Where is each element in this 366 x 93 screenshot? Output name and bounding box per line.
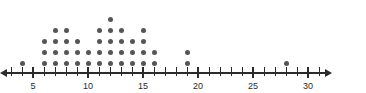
axis-arrow-left-icon	[0, 69, 7, 77]
data-dot	[130, 39, 135, 44]
axis-tick	[87, 67, 89, 78]
data-dot	[75, 39, 80, 44]
data-dot	[64, 28, 69, 33]
axis-tick	[165, 67, 166, 76]
data-dot	[141, 61, 146, 66]
axis-tick	[187, 67, 188, 76]
axis-tick	[275, 67, 276, 76]
data-dot	[75, 61, 80, 66]
data-dot	[86, 61, 91, 66]
axis-tick	[252, 67, 254, 78]
axis-tick	[110, 67, 111, 76]
data-dot	[119, 39, 124, 44]
axis-tick	[242, 67, 243, 76]
axis-tick-label: 10	[78, 81, 98, 91]
axis-tick-label: 20	[188, 81, 208, 91]
axis-tick-label: 15	[133, 81, 153, 91]
data-dot	[53, 61, 58, 66]
data-dot	[141, 39, 146, 44]
axis-tick	[286, 67, 287, 76]
data-dot	[97, 39, 102, 44]
data-dot	[97, 61, 102, 66]
data-dot	[130, 61, 135, 66]
data-dot	[64, 39, 69, 44]
data-dot	[86, 50, 91, 55]
axis-tick	[55, 67, 56, 76]
data-dot	[108, 61, 113, 66]
axis-tick	[142, 67, 144, 78]
axis-tick	[121, 67, 122, 76]
axis-tick	[307, 67, 309, 78]
data-dot	[53, 28, 58, 33]
axis-tick	[220, 67, 221, 76]
axis-tick	[22, 67, 23, 76]
axis-tick	[44, 67, 45, 76]
data-dot	[53, 50, 58, 55]
axis-tick	[297, 67, 298, 76]
axis-tick	[132, 67, 133, 76]
dot-plot-chart: 51015202530	[0, 0, 366, 93]
data-dot	[42, 50, 47, 55]
data-dot	[108, 39, 113, 44]
axis-tick-label: 25	[243, 81, 263, 91]
axis-tick	[176, 67, 177, 76]
data-dot	[53, 39, 58, 44]
data-dot	[152, 61, 157, 66]
data-dot	[108, 17, 113, 22]
data-dot	[119, 61, 124, 66]
axis-tick	[66, 67, 67, 76]
data-dot	[185, 50, 190, 55]
axis-tick	[231, 67, 232, 76]
data-dot	[284, 61, 289, 66]
axis-arrow-right-icon	[325, 69, 332, 77]
axis-tick-label: 5	[23, 81, 43, 91]
data-dot	[152, 50, 157, 55]
axis-tick	[319, 67, 320, 76]
axis-tick-label: 30	[298, 81, 318, 91]
axis-tick	[99, 67, 100, 76]
data-dot	[97, 50, 102, 55]
data-dot	[130, 50, 135, 55]
axis-tick	[197, 67, 199, 78]
data-dot	[119, 28, 124, 33]
data-dot	[75, 50, 80, 55]
data-dot	[42, 61, 47, 66]
data-dot	[141, 28, 146, 33]
axis-tick	[264, 67, 265, 76]
data-dot	[141, 50, 146, 55]
data-dot	[64, 61, 69, 66]
data-dot	[20, 61, 25, 66]
data-dot	[42, 39, 47, 44]
axis-tick	[154, 67, 155, 76]
axis-tick	[209, 67, 210, 76]
data-dot	[119, 50, 124, 55]
axis-tick	[11, 67, 12, 76]
data-dot	[185, 61, 190, 66]
axis-tick	[32, 67, 34, 78]
data-dot	[108, 50, 113, 55]
data-dot	[97, 28, 102, 33]
data-dot	[64, 50, 69, 55]
data-dot	[108, 28, 113, 33]
axis-tick	[77, 67, 78, 76]
